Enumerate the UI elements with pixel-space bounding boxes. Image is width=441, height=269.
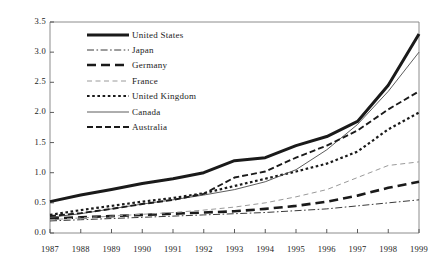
legend-item: Canada <box>86 104 216 119</box>
legend-item-label: Australia <box>130 122 167 132</box>
series-line-germany <box>50 182 419 219</box>
legend-item: France <box>86 73 216 88</box>
chart-legend: United StatesJapanGermanyFranceUnited Ki… <box>86 27 216 135</box>
legend-item-label: France <box>130 76 158 86</box>
legend-item: United Kingdom <box>86 89 216 104</box>
y-axis-tick-label: 1.0 <box>14 167 46 177</box>
y-axis-tick-label: 2.0 <box>14 106 46 116</box>
legend-line-swatch <box>86 90 130 102</box>
plot-area <box>0 0 441 269</box>
y-axis-tick-label: 0.5 <box>14 197 46 207</box>
legend-line-swatch <box>86 44 130 56</box>
legend-item-label: Japan <box>130 45 154 55</box>
legend-item: United States <box>86 27 216 42</box>
legend-item: Japan <box>86 42 216 57</box>
y-axis-tick-label: 3.5 <box>14 16 46 26</box>
legend-item-label: United States <box>130 30 184 40</box>
legend-item-label: Germany <box>130 60 167 70</box>
legend-line-swatch <box>86 121 130 133</box>
y-axis-tick-label: 0.0 <box>14 227 46 237</box>
legend-item: Germany <box>86 58 216 73</box>
legend-line-swatch <box>86 75 130 87</box>
y-axis-tick-label: 1.5 <box>14 137 46 147</box>
legend-item-label: Canada <box>130 107 161 117</box>
y-axis-tick-label: 3.0 <box>14 46 46 56</box>
y-axis-tick-label: 2.5 <box>14 76 46 86</box>
legend-item-label: United Kingdom <box>130 91 196 101</box>
legend-item: Australia <box>86 119 216 134</box>
line-chart: 0.00.51.01.52.02.53.03.5 198719881989199… <box>0 0 441 269</box>
legend-line-swatch <box>86 59 130 71</box>
x-axis-tick-label: 1999 <box>401 244 437 254</box>
legend-line-swatch <box>86 29 130 41</box>
legend-line-swatch <box>86 106 130 118</box>
